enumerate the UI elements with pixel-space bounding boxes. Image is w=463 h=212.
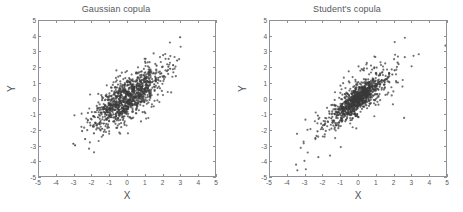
y-tick-label: -5	[22, 174, 36, 181]
y-tick	[269, 146, 272, 147]
x-tick	[411, 174, 412, 177]
y-tick	[213, 20, 216, 21]
x-tick	[216, 20, 217, 23]
x-tick	[287, 174, 288, 177]
x-tick	[216, 174, 217, 177]
y-tick	[269, 177, 272, 178]
x-tick-label: 4	[196, 179, 200, 186]
y-tick-label: 4	[253, 32, 267, 39]
figure-canvas: Gaussian copula -5-4-3-2-1012345 -5-4-3-…	[0, 0, 463, 212]
panel-students-copula: Student's copula -5-4-3-2-1012345 -5-4-3…	[231, 0, 463, 212]
x-tick	[145, 20, 146, 23]
x-tick	[145, 174, 146, 177]
x-tick-label: 3	[410, 179, 414, 186]
y-tick-label: 1	[253, 79, 267, 86]
y-tick-label: -5	[253, 174, 267, 181]
x-tick	[91, 174, 92, 177]
y-tick-label: 4	[22, 32, 36, 39]
y-tick	[269, 83, 272, 84]
y-tick-label: 5	[22, 17, 36, 24]
y-tick	[269, 36, 272, 37]
x-tick-label: -2	[89, 179, 95, 186]
y-tick	[38, 146, 41, 147]
axes-gaussian	[38, 20, 216, 177]
y-tick	[38, 20, 41, 21]
y-tick	[444, 36, 447, 37]
x-tick	[394, 20, 395, 23]
y-tick-label: -1	[253, 111, 267, 118]
y-tick-label: 3	[253, 48, 267, 55]
x-tick	[163, 20, 164, 23]
panel-gaussian-copula: Gaussian copula -5-4-3-2-1012345 -5-4-3-…	[0, 0, 232, 212]
x-tick	[376, 174, 377, 177]
y-tick-label: -4	[253, 158, 267, 165]
y-tick-label: 2	[22, 64, 36, 71]
x-tick	[109, 20, 110, 23]
y-tick	[213, 161, 216, 162]
y-tick-label: -3	[22, 142, 36, 149]
y-tick	[444, 146, 447, 147]
y-axis-label-students: Y	[237, 85, 248, 92]
x-tick-label: 1	[374, 179, 378, 186]
y-tick	[38, 161, 41, 162]
x-tick	[447, 20, 448, 23]
y-tick-label: 2	[253, 64, 267, 71]
y-tick	[444, 51, 447, 52]
y-tick	[444, 130, 447, 131]
y-tick-label: -2	[253, 126, 267, 133]
y-tick-label: 0	[22, 95, 36, 102]
x-tick	[74, 20, 75, 23]
x-tick-label: 5	[214, 179, 218, 186]
x-tick	[322, 20, 323, 23]
x-tick	[198, 20, 199, 23]
x-tick-label: -5	[35, 179, 41, 186]
y-tick	[38, 99, 41, 100]
y-tick	[269, 67, 272, 68]
x-tick	[109, 174, 110, 177]
y-tick-label: 3	[22, 48, 36, 55]
x-tick	[74, 174, 75, 177]
x-tick-label: 5	[445, 179, 449, 186]
y-tick	[213, 36, 216, 37]
x-tick-label: 3	[179, 179, 183, 186]
y-tick	[269, 51, 272, 52]
x-tick	[358, 20, 359, 23]
y-tick-label: -1	[22, 111, 36, 118]
x-tick-label: 0	[125, 179, 129, 186]
x-tick-label: -1	[337, 179, 343, 186]
y-tick	[213, 177, 216, 178]
y-tick	[269, 161, 272, 162]
y-tick	[213, 51, 216, 52]
x-tick	[198, 174, 199, 177]
y-tick-labels-gaussian: -5-4-3-2-1012345	[20, 0, 36, 212]
y-tick	[269, 99, 272, 100]
x-tick	[56, 20, 57, 23]
y-tick	[38, 36, 41, 37]
x-tick	[340, 20, 341, 23]
y-tick	[444, 67, 447, 68]
y-tick	[444, 83, 447, 84]
y-tick	[269, 114, 272, 115]
y-tick	[38, 114, 41, 115]
y-tick	[269, 130, 272, 131]
x-tick	[180, 174, 181, 177]
x-tick-label: 0	[356, 179, 360, 186]
x-tick	[91, 20, 92, 23]
x-tick-label: -1	[106, 179, 112, 186]
y-tick	[444, 20, 447, 21]
x-tick	[447, 174, 448, 177]
y-tick	[213, 130, 216, 131]
x-tick-label: -2	[320, 179, 326, 186]
y-axis-label-gaussian: Y	[6, 85, 17, 92]
x-tick-label: -3	[71, 179, 77, 186]
x-tick-label: 1	[143, 179, 147, 186]
x-tick	[411, 20, 412, 23]
y-tick-labels-students: -5-4-3-2-1012345	[251, 0, 267, 212]
y-tick-label: -4	[22, 158, 36, 165]
x-tick	[163, 174, 164, 177]
x-axis-label-students: X	[269, 190, 447, 201]
scatter-points-gaussian	[39, 21, 215, 176]
y-tick	[38, 83, 41, 84]
y-tick	[213, 99, 216, 100]
x-tick-label: -4	[284, 179, 290, 186]
